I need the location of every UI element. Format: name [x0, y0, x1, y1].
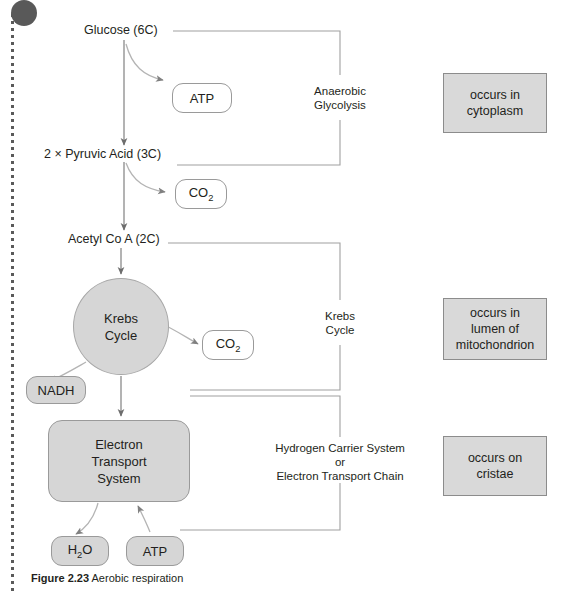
arrow-pyruvate-to-co2 — [126, 163, 165, 192]
product-atp-glycolysis: ATP — [172, 83, 232, 113]
bracket3-line3: Electron Transport Chain — [246, 469, 434, 483]
location2-line2: lumen of — [471, 321, 519, 337]
ets-label-line1: Electron — [95, 436, 143, 453]
node-glucose: Glucose (6C) — [84, 23, 158, 38]
electron-transport-system-box: Electron Transport System — [48, 420, 190, 502]
bracket-ets-upper — [190, 396, 340, 437]
arrow-ets-to-water — [76, 503, 98, 534]
ets-label-line2: Transport — [91, 453, 146, 470]
water-label: H2O — [68, 542, 93, 560]
bracket-glycolysis-lower — [177, 120, 340, 165]
product-atp-ets: ATP — [126, 536, 184, 566]
product-co2-krebs: CO2 — [202, 330, 254, 360]
arrow-atp-to-ets — [138, 506, 150, 532]
bracket2-line1: Krebs — [307, 309, 373, 323]
location-box-mitochondrion-lumen: occurs in lumen of mitochondrion — [443, 298, 547, 360]
bracket-label-krebs-cycle: Krebs Cycle — [307, 309, 373, 337]
location-box-cytoplasm: occurs in cytoplasm — [443, 73, 547, 133]
bracket3-line1: Hydrogen Carrier System — [246, 441, 434, 455]
bracket-krebs-upper — [168, 243, 340, 300]
product-co2-pyruvate: CO2 — [175, 179, 227, 209]
ets-label-line3: System — [97, 470, 140, 487]
krebs-cycle-label-line2: Cycle — [105, 327, 138, 344]
node-acetyl-coa: Acetyl Co A (2C) — [68, 232, 160, 247]
krebs-cycle-circle: Krebs Cycle — [73, 278, 169, 375]
bracket-ets-lower — [180, 483, 340, 530]
bracket-glycolysis-upper — [173, 31, 340, 75]
location1-line2: cytoplasm — [467, 103, 523, 119]
bracket-label-hydrogen-carrier-system: Hydrogen Carrier System or Electron Tran… — [246, 441, 434, 483]
nadh-label: NADH — [38, 383, 75, 398]
location3-line2: cristae — [477, 466, 514, 482]
co2-krebs-label: CO2 — [216, 336, 241, 354]
bracket-label-anaerobic-glycolysis: Anaerobic Glycolysis — [307, 84, 373, 112]
atp-glycolysis-label: ATP — [190, 91, 214, 106]
location-box-cristae: occurs on cristae — [443, 436, 547, 496]
location3-line1: occurs on — [468, 450, 522, 466]
figure-caption-number: Figure 2.23 — [31, 572, 89, 584]
node-pyruvic-acid: 2 × Pyruvic Acid (3C) — [44, 147, 161, 162]
bracket2-line2: Cycle — [307, 323, 373, 337]
co2-pyruvate-label: CO2 — [189, 185, 214, 203]
location2-line1: occurs in — [470, 305, 520, 321]
bracket1-line2: Glycolysis — [307, 98, 373, 112]
figure-caption-text: Aerobic respiration — [92, 572, 184, 584]
aerobic-respiration-figure: Glucose (6C) 2 × Pyruvic Acid (3C) Acety… — [0, 0, 563, 592]
location1-line1: occurs in — [470, 87, 520, 103]
bracket1-line1: Anaerobic — [307, 84, 373, 98]
krebs-cycle-label-line1: Krebs — [104, 310, 138, 327]
location2-line3: mitochondrion — [456, 337, 535, 353]
figure-caption: Figure 2.23 Aerobic respiration — [31, 572, 183, 584]
bracket3-line2: or — [246, 455, 434, 469]
arrow-glucose-to-atp — [126, 44, 163, 80]
product-nadh: NADH — [26, 376, 86, 404]
atp-ets-label: ATP — [143, 544, 167, 559]
product-water: H2O — [51, 536, 109, 566]
